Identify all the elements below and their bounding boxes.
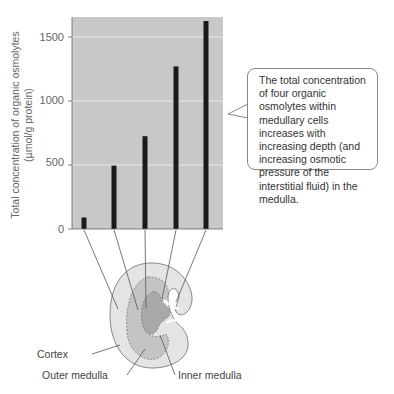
bar-1 [82, 217, 87, 229]
label-outer-medulla: Outer medulla [42, 369, 108, 381]
y-ticks [68, 37, 72, 229]
y-axis-label-line-2: (µmol/g protein) [22, 25, 35, 225]
callout-text: The total concentration of four organic … [259, 74, 366, 205]
bar-4 [174, 66, 179, 229]
bar-chart [0, 0, 394, 394]
figure: 0 500 1000 1500 Total concentration of o… [0, 0, 394, 394]
bar-2 [112, 166, 117, 229]
label-cortex: Cortex [37, 348, 68, 360]
bar-3 [143, 136, 148, 229]
label-inner-medulla: Inner medulla [178, 369, 242, 381]
bar-5 [204, 21, 209, 229]
kidney-diagram [110, 263, 192, 368]
y-axis-label: Total concentration of organic osmolytes… [9, 25, 35, 225]
callout-box: The total concentration of four organic … [247, 68, 378, 170]
callout-pointer [228, 104, 248, 118]
y-axis-label-line-1: Total concentration of organic osmolytes [9, 25, 22, 225]
